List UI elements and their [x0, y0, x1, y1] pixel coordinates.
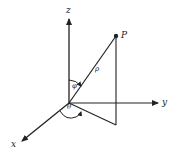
rho-label: ρ — [95, 66, 99, 73]
theta-arc — [60, 111, 81, 118]
diagram-canvas — [0, 0, 182, 158]
z-axis-label: z — [66, 6, 71, 15]
projection-horizontal-line — [69, 103, 116, 125]
y-axis-label: y — [162, 98, 167, 107]
rho-line — [69, 36, 116, 103]
phi-label: φ — [72, 83, 77, 90]
x-axis-label: x — [11, 140, 16, 149]
point-p-dot — [114, 34, 118, 38]
point-p-label: P — [121, 31, 127, 40]
theta-label: θ — [67, 104, 71, 111]
x-axis — [22, 103, 69, 141]
spherical-coordinates-diagram: z P y x ρ φ θ — [0, 0, 182, 158]
